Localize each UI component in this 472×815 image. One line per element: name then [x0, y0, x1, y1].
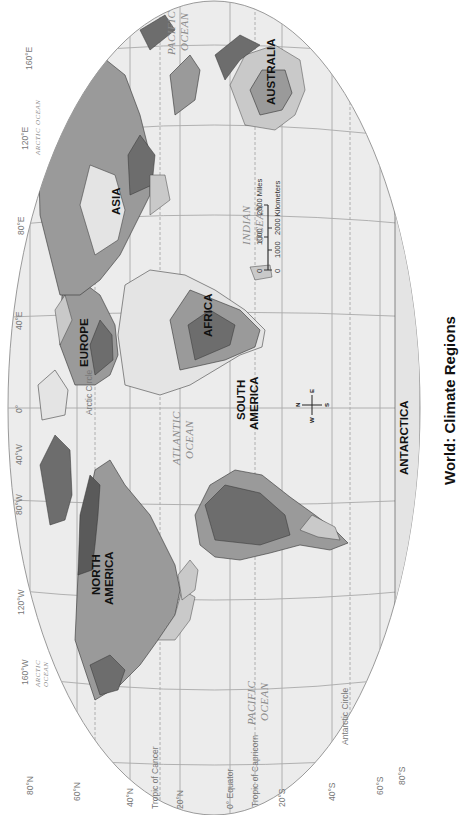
scale-miles-1000: 1000: [255, 228, 264, 245]
lat-80s-label: 80°S: [397, 766, 407, 785]
asia-label: ASIA: [110, 188, 122, 215]
lon-120e-label: 120°E: [20, 126, 30, 150]
tropic-of-capricorn-label: Tropic of Capricorn: [250, 735, 260, 807]
lon-40e-label: 40°E: [14, 311, 24, 330]
scale-miles-label: 2000 Miles: [255, 178, 264, 215]
lon-0-label: 0°: [14, 405, 24, 413]
lon-80e-label: 80°E: [16, 216, 26, 235]
antarctica-label: ANTARCTICA: [398, 400, 410, 475]
lat-60n-label: 60°N: [72, 782, 82, 801]
pacific-ocean-label-west: PACIFICOCEAN: [245, 681, 270, 726]
lat-20s-label: 20°S: [277, 788, 287, 807]
africa-label: AFRICA: [202, 294, 214, 337]
arctic-ocean-label-west: ARCTICOCEAN: [34, 660, 50, 688]
compass-east: E: [309, 389, 315, 393]
lon-160w-label: 160°W: [20, 659, 30, 685]
lat-80n-label: 80°N: [25, 776, 35, 795]
scale-km-label: 2000 Kilometers: [273, 181, 282, 235]
equator-label: 0° Equator: [225, 769, 235, 809]
world-climate-map: PACIFICOCEAN ATLANTICOCEAN INDIANOCEAN P…: [0, 0, 472, 815]
lon-80w-label: 80°W: [14, 494, 24, 515]
australia-label: AUSTRALIA: [265, 39, 277, 105]
scale-miles-0: 0: [255, 269, 264, 273]
arctic-circle-label: Arctic Circle: [84, 369, 94, 415]
arctic-ocean-label-east: ARCTICOCEAN: [34, 100, 42, 156]
compass-west: W: [309, 417, 315, 423]
map-figure: PACIFICOCEAN ATLANTICOCEAN INDIANOCEAN P…: [0, 0, 472, 815]
lat-20n-label: 20°N: [175, 790, 185, 809]
tropic-of-cancer-label: Tropic of Cancer: [150, 746, 160, 809]
lon-160e-label: 160°E: [24, 46, 34, 70]
compass-south: S: [324, 403, 330, 407]
pacific-ocean-label-east: PACIFICOCEAN: [165, 11, 190, 56]
antarctic-circle-label: Antarctic Circle: [340, 688, 350, 745]
map-rotated-group: PACIFICOCEAN ATLANTICOCEAN INDIANOCEAN P…: [8, 0, 458, 815]
lat-40n-label: 40°N: [125, 788, 135, 807]
map-title: World: Climate Regions: [441, 316, 458, 485]
lat-60s-label: 60°S: [375, 776, 385, 795]
scale-km-0: 0: [273, 269, 282, 273]
lon-40w-label: 40°W: [14, 444, 24, 465]
lon-120w-label: 120°W: [16, 589, 26, 615]
lat-40s-label: 40°S: [327, 782, 337, 801]
compass-north: N: [295, 403, 301, 407]
scale-km-1000: 1000: [273, 241, 282, 258]
europe-label: EUROPE: [78, 318, 90, 367]
